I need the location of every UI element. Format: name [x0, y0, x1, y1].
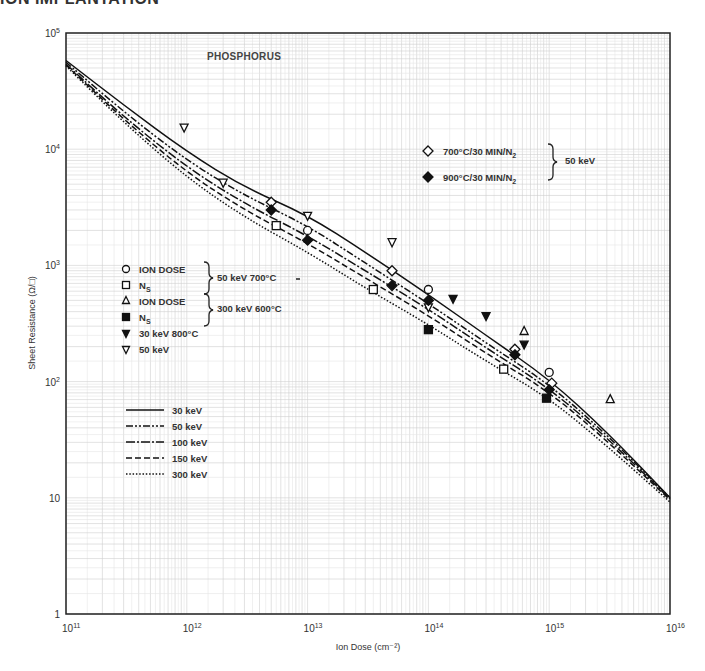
y-axis-title: Sheet Resistance (Ω/□) — [27, 276, 37, 370]
triangle-down-open-icon — [219, 179, 227, 187]
y-axis-ticks: 110102103104105 — [45, 27, 60, 620]
diamond-filled-icon — [423, 172, 433, 182]
legend-label: NS — [139, 312, 151, 325]
marker-legend: ION DOSENSION DOSENS30 keV 800°C50 keV 5… — [123, 262, 301, 355]
circle-open-icon — [545, 368, 553, 376]
sheet-resistance-chart: 101110121013101410151016 110102103104105… — [0, 0, 705, 671]
y-tick-label: 102 — [45, 376, 60, 388]
square-filled-icon — [123, 314, 130, 321]
y-tick-label: 104 — [45, 143, 60, 155]
triangle-down-open-icon — [388, 239, 396, 247]
y-tick-label: 103 — [45, 259, 60, 271]
legend-label: 300 keV — [172, 469, 208, 480]
y-tick-label: 105 — [45, 27, 60, 39]
group2-label: 300 keV 600°C — [217, 303, 282, 314]
legend-label: 30 keV 800°C — [139, 328, 198, 339]
plot-frame — [66, 33, 670, 614]
legend-label: 700°C/30 MIN/N2 — [443, 146, 516, 159]
legend-label: ION DOSE — [139, 264, 185, 275]
brace-icon — [204, 294, 213, 326]
legend-label: 30 keV — [172, 405, 203, 416]
model-curves — [66, 60, 670, 502]
square-open-icon — [123, 282, 130, 289]
legend-label: 900°C/30 MIN/N2 — [443, 172, 516, 185]
triangle-down-filled-icon — [449, 295, 457, 303]
circle-open-icon — [123, 266, 130, 273]
legend-label: 50 keV — [139, 344, 170, 355]
x-tick-label: 1013 — [304, 622, 323, 634]
x-tick-label: 1015 — [545, 622, 564, 634]
chart-title: PHOSPHORUS — [207, 51, 281, 62]
circle-open-icon — [424, 286, 432, 294]
square-open-icon — [369, 286, 377, 294]
diamond-filled-icon — [303, 235, 313, 245]
legend-label: 50 keV — [172, 421, 203, 432]
x-axis-title: Ion Dose (cm⁻²) — [336, 642, 401, 652]
x-tick-label: 1016 — [666, 622, 685, 634]
legend-label: 100 keV — [172, 437, 208, 448]
grid — [66, 33, 670, 614]
x-axis-ticks: 101110121013101410151016 — [62, 622, 685, 634]
square-filled-icon — [424, 326, 432, 334]
circle-open-icon — [304, 226, 312, 234]
group1-label: 50 keV 700°C — [217, 272, 276, 283]
y-tick-label: 1 — [54, 609, 60, 620]
brace-icon — [204, 262, 213, 294]
triangle-down-filled-icon — [482, 313, 490, 321]
anneal-group-label: 50 keV — [565, 155, 596, 166]
triangle-up-open-icon — [606, 395, 614, 403]
anneal-legend: 700°C/30 MIN/N2900°C/30 MIN/N2 50 keV — [423, 144, 596, 185]
triangle-down-filled-icon — [520, 341, 528, 349]
x-tick-label: 1012 — [183, 622, 202, 634]
triangle-up-open-icon — [520, 326, 528, 334]
legend-label: ION DOSE — [139, 296, 185, 307]
legend-label: 150 keV — [172, 453, 208, 464]
square-open-icon — [500, 365, 508, 373]
x-tick-label: 1014 — [424, 622, 443, 634]
x-tick-label: 1011 — [62, 622, 80, 634]
square-open-icon — [272, 222, 280, 230]
curve-300-kev — [66, 66, 670, 502]
y-tick-label: 10 — [49, 493, 61, 504]
